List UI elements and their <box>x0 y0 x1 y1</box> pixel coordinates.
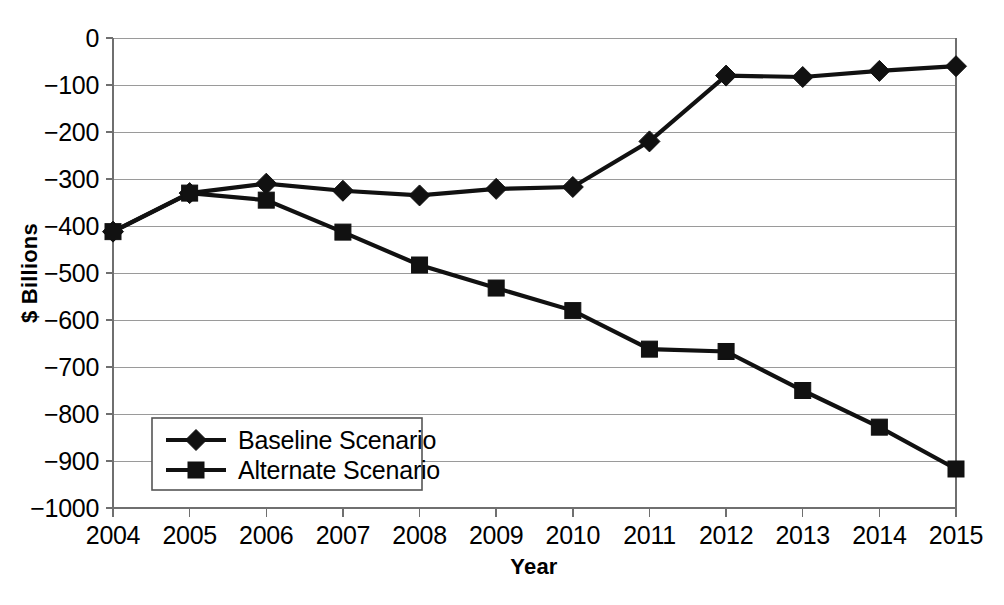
x-axis-tick-label: 2009 <box>469 521 523 549</box>
legend-label: Baseline Scenario <box>238 426 436 454</box>
data-point-square <box>412 257 428 273</box>
y-axis-tick-label: −700 <box>44 353 99 381</box>
chart-container: 0−100−200−300−400−500−600−700−800−900−10… <box>0 0 1004 605</box>
y-axis-tick-label: −1000 <box>30 494 99 522</box>
data-point-square <box>488 280 504 296</box>
data-point-square <box>948 461 964 477</box>
data-point-square <box>258 192 274 208</box>
x-axis-tick-label: 2006 <box>239 521 293 549</box>
x-axis-tick-label: 2015 <box>929 521 983 549</box>
y-axis-tick-label: −100 <box>44 71 99 99</box>
line-chart: 0−100−200−300−400−500−600−700−800−900−10… <box>0 0 1004 605</box>
data-point-square <box>565 303 581 319</box>
data-point-square <box>871 419 887 435</box>
x-axis-tick-label: 2012 <box>699 521 753 549</box>
legend: Baseline ScenarioAlternate Scenario <box>152 418 440 490</box>
x-axis-tick-label: 2014 <box>852 521 907 549</box>
data-point-square <box>718 343 734 359</box>
x-axis-tick-label: 2011 <box>623 521 676 549</box>
x-axis-tick-label: 2004 <box>86 521 141 549</box>
x-axis-tick-label: 2005 <box>162 521 216 549</box>
data-point-square <box>795 383 811 399</box>
y-axis-tick-label: −900 <box>44 447 99 475</box>
y-axis-tick-label: 0 <box>85 24 99 52</box>
x-axis-tick-label: 2013 <box>776 521 830 549</box>
y-axis-title: $ Billions <box>17 223 42 323</box>
data-point-square <box>641 341 657 357</box>
y-axis-tick-label: −600 <box>44 306 99 334</box>
x-axis-tick-label: 2007 <box>316 521 370 549</box>
y-axis-tick-label: −800 <box>44 400 99 428</box>
y-axis-tick-label: −200 <box>44 118 99 146</box>
x-axis-title: Year <box>510 554 558 579</box>
legend-label: Alternate Scenario <box>238 456 440 484</box>
x-axis-tick-label: 2008 <box>392 521 446 549</box>
y-axis-tick-label: −500 <box>44 259 99 287</box>
data-point-square <box>105 224 121 240</box>
x-axis-tick-label: 2010 <box>546 521 600 549</box>
data-point-square <box>335 224 351 240</box>
legend-marker-square <box>188 462 204 478</box>
chart-background <box>0 0 1004 605</box>
data-point-square <box>182 185 198 201</box>
y-axis-tick-label: −400 <box>44 212 99 240</box>
y-axis-tick-label: −300 <box>44 165 99 193</box>
